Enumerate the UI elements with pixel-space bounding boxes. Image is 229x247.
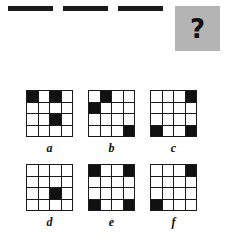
- grid-cell-r1-c2: [163, 165, 174, 176]
- grid-cell-r1-c2: [101, 165, 112, 176]
- sequence-grid-1: [8, 6, 53, 11]
- grid-cell-r3-c4: [124, 188, 135, 199]
- option-f[interactable]: f: [150, 164, 197, 230]
- grid-cell-r3-c3: [174, 114, 185, 125]
- grid-cell-r4-c3: [50, 200, 61, 211]
- grid-cell-r3-c3: [50, 114, 61, 125]
- grid-cell-r2-c3: [174, 177, 185, 188]
- grid-cell-r1-c4: [124, 165, 135, 176]
- option-d-label: d: [26, 215, 73, 230]
- grid-cell-r4-c2: [39, 200, 50, 211]
- grid-cell-r2-c3: [174, 103, 185, 114]
- grid-cell-r3-c2: [39, 114, 50, 125]
- grid-cell-r1-c2: [101, 91, 112, 102]
- grid-cell-r2-c2: [163, 103, 174, 114]
- grid-cell-r4-c1: [89, 200, 100, 211]
- grid-cell-r4-c4: [124, 200, 135, 211]
- grid-cell-r1-c3: [174, 91, 185, 102]
- option-e-label: e: [88, 215, 135, 230]
- option-a-grid[interactable]: [26, 90, 73, 137]
- grid-cell-r4-c3: [50, 126, 61, 137]
- grid-cell-r2-c4: [124, 103, 135, 114]
- sequence-panel-2: [63, 6, 108, 51]
- grid-cell-r3-c3: [112, 114, 123, 125]
- grid-cell-r2-c1: [89, 103, 100, 114]
- grid-cell-r4-c3: [112, 200, 123, 211]
- grid-cell-r3-c1: [27, 114, 38, 125]
- sequence-panel-1: [8, 6, 53, 51]
- grid-cell-r1-c1: [27, 91, 38, 102]
- option-c-grid[interactable]: [150, 90, 197, 137]
- grid-cell-r2-c2: [39, 177, 50, 188]
- option-a[interactable]: a: [26, 90, 73, 156]
- grid-cell-r4-c3: [112, 126, 123, 137]
- grid-cell-r1-c3: [50, 165, 61, 176]
- grid-cell-r3-c1: [89, 114, 100, 125]
- grid-cell-r3-c1: [151, 114, 162, 125]
- grid-cell-r1-c1: [27, 165, 38, 176]
- grid-cell-r1-c1: [89, 91, 100, 102]
- grid-cell-r1-c4: [62, 165, 73, 176]
- option-b[interactable]: b: [88, 90, 135, 156]
- grid-cell-r4-c3: [174, 200, 185, 211]
- option-a-label: a: [26, 141, 73, 156]
- sequence-panel-3: [118, 6, 163, 51]
- grid-cell-r3-c4: [62, 114, 73, 125]
- grid-cell-r3-c1: [89, 188, 100, 199]
- grid-cell-r4-c2: [163, 126, 174, 137]
- option-d-grid[interactable]: [26, 164, 73, 211]
- question-mark-icon: ?: [190, 16, 205, 42]
- grid-cell-r1-c1: [151, 91, 162, 102]
- grid-cell-r4-c4: [124, 126, 135, 137]
- grid-cell-r1-c3: [112, 91, 123, 102]
- grid-cell-r2-c1: [151, 177, 162, 188]
- option-d[interactable]: d: [26, 164, 73, 230]
- grid-cell-r3-c2: [101, 188, 112, 199]
- option-c[interactable]: c: [150, 90, 197, 156]
- grid-cell-r4-c3: [174, 126, 185, 137]
- grid-cell-r2-c3: [50, 177, 61, 188]
- grid-cell-r3-c2: [39, 188, 50, 199]
- grid-cell-r1-c4: [62, 91, 73, 102]
- grid-cell-r4-c2: [39, 126, 50, 137]
- question-panel: ?: [175, 6, 220, 51]
- sequence-grid-2: [63, 6, 108, 11]
- grid-cell-r3-c2: [101, 114, 112, 125]
- grid-cell-r4-c2: [163, 200, 174, 211]
- grid-cell-r4-c4: [62, 126, 73, 137]
- grid-cell-r4-c2: [101, 200, 112, 211]
- option-b-label: b: [88, 141, 135, 156]
- grid-cell-r2-c3: [112, 103, 123, 114]
- grid-cell-r4-c1: [27, 126, 38, 137]
- grid-cell-r1-c2: [163, 91, 174, 102]
- grid-cell-r3-c2: [163, 188, 174, 199]
- grid-cell-r4-c1: [89, 126, 100, 137]
- grid-cell-r2-c2: [101, 103, 112, 114]
- grid-cell-r4-c4: [186, 126, 197, 137]
- grid-cell-r2-c2: [39, 103, 50, 114]
- grid-cell-r3-c3: [50, 188, 61, 199]
- grid-cell-r1-c4: [124, 91, 135, 102]
- grid-cell-r1-c1: [89, 165, 100, 176]
- grid-cell-r1-c3: [174, 165, 185, 176]
- sequence-grid-3: [118, 6, 163, 11]
- grid-cell-r4-c1: [151, 126, 162, 137]
- grid-cell-r2-c3: [50, 103, 61, 114]
- sequence-row: ?: [0, 6, 229, 55]
- grid-cell-r2-c4: [186, 103, 197, 114]
- grid-cell-r3-c1: [27, 188, 38, 199]
- option-e-grid[interactable]: [88, 164, 135, 211]
- grid-cell-r1-c1: [151, 165, 162, 176]
- grid-cell-r3-c4: [186, 188, 197, 199]
- grid-cell-r4-c1: [27, 200, 38, 211]
- option-e[interactable]: e: [88, 164, 135, 230]
- grid-cell-r1-c4: [186, 91, 197, 102]
- grid-cell-r2-c4: [62, 103, 73, 114]
- option-f-grid[interactable]: [150, 164, 197, 211]
- option-b-grid[interactable]: [88, 90, 135, 137]
- grid-cell-r3-c3: [174, 188, 185, 199]
- grid-cell-r2-c1: [89, 177, 100, 188]
- grid-cell-r4-c4: [62, 200, 73, 211]
- grid-cell-r2-c1: [27, 103, 38, 114]
- grid-reasoning-puzzle: ? a b c d e f: [0, 0, 229, 247]
